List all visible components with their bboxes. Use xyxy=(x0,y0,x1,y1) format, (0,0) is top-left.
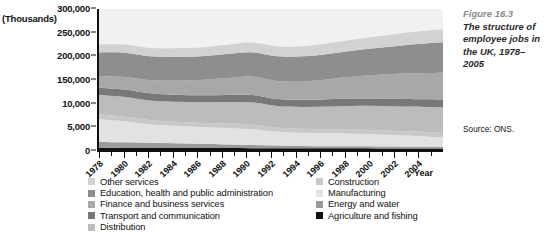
legend-label: Agriculture and fishing xyxy=(328,211,418,221)
figure-source: Source: ONS. xyxy=(463,124,514,134)
legend-item[interactable]: Agriculture and fishing xyxy=(316,210,418,221)
legend-label: Other services xyxy=(100,177,159,187)
legend-item[interactable]: Distribution xyxy=(88,222,273,233)
legend-swatch xyxy=(316,212,323,219)
figure-container: (Thousands) 05,00010,000150,000200,00025… xyxy=(0,0,545,237)
figure-caption: Figure 16.3 The structure of employee jo… xyxy=(463,8,543,71)
figure-title: The structure of employee jobs in the UK… xyxy=(463,21,543,71)
stacked-area-chart-plot xyxy=(99,9,443,150)
y-axis-tick-mark xyxy=(91,31,96,32)
legend-label: Manufacturing xyxy=(328,188,386,198)
y-axis-tick-mark xyxy=(91,102,96,103)
legend-item[interactable]: Transport and communication xyxy=(88,210,273,221)
legend-item[interactable]: Construction xyxy=(316,176,418,187)
legend-swatch xyxy=(88,201,95,208)
legend-swatch xyxy=(88,224,95,231)
legend-swatch xyxy=(316,190,323,197)
y-axis-tick-mark xyxy=(91,55,96,56)
legend-item[interactable]: Energy and water xyxy=(316,199,418,210)
legend-item[interactable]: Manufacturing xyxy=(316,187,418,198)
legend-item[interactable]: Education, health and public administrat… xyxy=(88,187,273,198)
y-axis-tick-label: 150,000 xyxy=(57,74,90,85)
legend-swatch xyxy=(88,212,95,219)
legend-swatch xyxy=(88,178,95,185)
chart-legend: Other servicesEducation, health and publ… xyxy=(88,176,448,234)
legend-column-right: ConstructionManufacturingEnergy and wate… xyxy=(316,176,418,222)
legend-label: Education, health and public administrat… xyxy=(100,188,273,198)
legend-swatch xyxy=(316,201,323,208)
legend-column-left: Other servicesEducation, health and publ… xyxy=(88,176,273,233)
legend-label: Finance and business services xyxy=(100,199,224,209)
y-axis-tick-label: 10,000 xyxy=(62,97,90,108)
legend-swatch xyxy=(88,190,95,197)
y-axis-tick-label: 200,000 xyxy=(57,50,90,61)
y-axis-tick-label: 300,000 xyxy=(57,3,90,14)
chart-svg xyxy=(99,9,443,150)
legend-label: Energy and water xyxy=(328,199,399,209)
y-axis-tick-label: 5,000 xyxy=(67,121,90,132)
y-axis-labels: 05,00010,000150,000200,000250,000300,000 xyxy=(44,8,96,150)
legend-label: Construction xyxy=(328,177,379,187)
legend-label: Transport and communication xyxy=(100,211,220,221)
y-axis-tick-mark xyxy=(91,126,96,127)
y-axis-tick-mark xyxy=(91,150,96,151)
y-axis-tick-mark xyxy=(91,8,96,9)
y-axis-tick-label: 0 xyxy=(85,145,90,156)
figure-number: Figure 16.3 xyxy=(463,8,543,20)
legend-item[interactable]: Other services xyxy=(88,176,273,187)
legend-label: Distribution xyxy=(100,222,145,232)
y-axis-tick-mark xyxy=(91,79,96,80)
legend-swatch xyxy=(316,178,323,185)
y-axis-tick-label: 250,000 xyxy=(57,26,90,37)
legend-item[interactable]: Finance and business services xyxy=(88,199,273,210)
